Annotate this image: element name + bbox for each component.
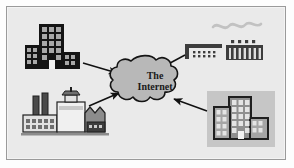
office-building-icon [25, 24, 80, 69]
internet-diagram: The Internet [0, 0, 294, 168]
diagram-panel: The Internet [6, 6, 286, 160]
wave-squiggle-icon [213, 23, 261, 28]
factory-icon [21, 87, 109, 136]
cloud-label-line-2: Internet [127, 82, 183, 93]
connection-arrow-factory-to-internet [89, 93, 119, 106]
cloud-label-line-1: The [127, 71, 183, 82]
network-hub-icon [185, 40, 263, 60]
internet-cloud-label: The Internet [127, 71, 183, 92]
connection-arrow-building-to-internet [174, 99, 207, 111]
office-building-icon [207, 91, 275, 147]
